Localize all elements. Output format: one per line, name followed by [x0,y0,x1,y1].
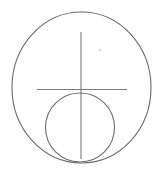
drawing-canvas [0,0,163,173]
line-drawing-svg [0,0,163,173]
speck-artifact-icon [98,48,101,51]
